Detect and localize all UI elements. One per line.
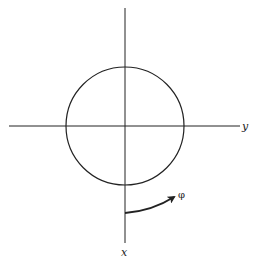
angle-arrow (125, 197, 174, 213)
y-axis-label: y (241, 120, 249, 133)
phi-angle-label: φ (178, 189, 185, 200)
x-axis-label: x (121, 246, 128, 259)
coordinate-diagram: y x φ (0, 0, 255, 264)
